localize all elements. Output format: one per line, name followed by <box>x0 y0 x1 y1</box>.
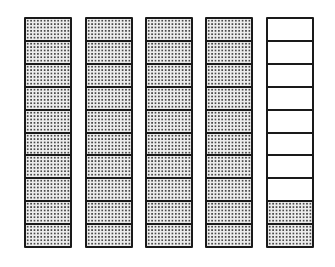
shaded-cell <box>26 225 70 246</box>
shaded-cell <box>26 19 70 42</box>
empty-cell <box>268 156 312 179</box>
empty-cell <box>268 111 312 134</box>
empty-cell <box>268 65 312 88</box>
shaded-cell <box>147 179 191 202</box>
shaded-cell <box>147 88 191 111</box>
empty-cell <box>268 88 312 111</box>
shaded-cell <box>207 111 251 134</box>
shaded-cell <box>26 156 70 179</box>
shaded-cell <box>87 111 131 134</box>
shaded-cell <box>87 88 131 111</box>
shaded-cell <box>207 65 251 88</box>
shaded-cell <box>26 88 70 111</box>
shaded-cell <box>207 88 251 111</box>
shaded-cell <box>207 202 251 225</box>
shaded-cell <box>26 42 70 65</box>
empty-cell <box>268 179 312 202</box>
shaded-cell <box>87 19 131 42</box>
empty-cell <box>268 19 312 42</box>
shaded-cell <box>147 225 191 246</box>
shaded-cell <box>87 134 131 157</box>
empty-cell <box>268 134 312 157</box>
shaded-cell <box>87 156 131 179</box>
shaded-cell <box>26 202 70 225</box>
tenths-strip-2 <box>85 17 133 248</box>
shaded-cell <box>268 225 312 246</box>
shaded-cell <box>87 42 131 65</box>
shaded-cell <box>26 111 70 134</box>
tenths-strip-5 <box>266 17 314 248</box>
shaded-cell <box>147 42 191 65</box>
shaded-cell <box>207 156 251 179</box>
shaded-cell <box>147 134 191 157</box>
shaded-cell <box>207 19 251 42</box>
shaded-cell <box>147 65 191 88</box>
shaded-cell <box>87 225 131 246</box>
shaded-cell <box>26 179 70 202</box>
shaded-cell <box>87 179 131 202</box>
shaded-cell <box>207 179 251 202</box>
shaded-cell <box>147 111 191 134</box>
shaded-cell <box>26 65 70 88</box>
shaded-cell <box>87 65 131 88</box>
shaded-cell <box>87 202 131 225</box>
tenths-strip-1 <box>24 17 72 248</box>
empty-cell <box>268 42 312 65</box>
shaded-cell <box>147 202 191 225</box>
shaded-cell <box>207 225 251 246</box>
shaded-cell <box>207 134 251 157</box>
shaded-cell <box>26 134 70 157</box>
shaded-cell <box>207 42 251 65</box>
shaded-cell <box>147 156 191 179</box>
shaded-cell <box>147 19 191 42</box>
tenths-strip-4 <box>205 17 253 248</box>
shaded-cell <box>268 202 312 225</box>
tenths-strip-3 <box>145 17 193 248</box>
